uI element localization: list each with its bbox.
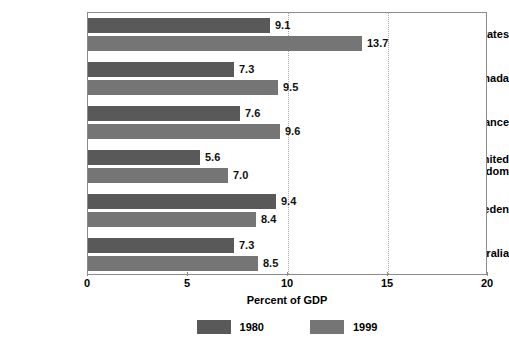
bar-chart: United StatesCanadaFranceUnitedKingdomSw… bbox=[0, 0, 509, 345]
legend-item-1999: 1999 bbox=[310, 320, 377, 334]
x-tick-label-5: 5 bbox=[184, 277, 190, 289]
bar-value-label: 9.4 bbox=[281, 194, 296, 209]
bar-value-label: 7.0 bbox=[233, 168, 248, 183]
bar-sweden-1999 bbox=[88, 212, 256, 227]
x-axis-ticks: 05101520 bbox=[87, 277, 487, 293]
x-axis-title: Percent of GDP bbox=[87, 294, 487, 306]
x-tick-label-20: 20 bbox=[481, 277, 493, 289]
x-tick-mark-15 bbox=[387, 272, 388, 276]
plot-area: 9.113.77.39.57.69.65.67.09.48.47.38.5 bbox=[87, 12, 487, 275]
bar-canada-1980 bbox=[88, 62, 234, 77]
bar-france-1980 bbox=[88, 106, 240, 121]
bar-value-label: 8.5 bbox=[263, 256, 278, 271]
bar-sweden-1980 bbox=[88, 194, 276, 209]
bar-value-label: 7.6 bbox=[245, 106, 260, 121]
legend-item-1980: 1980 bbox=[197, 320, 264, 334]
bar-canada-1999 bbox=[88, 80, 278, 95]
bar-value-label: 9.5 bbox=[283, 80, 298, 95]
gridline-10 bbox=[288, 13, 289, 274]
gridline-15 bbox=[388, 13, 389, 274]
bar-united-states-1999 bbox=[88, 36, 362, 51]
x-tick-label-15: 15 bbox=[381, 277, 393, 289]
bar-australia-1980 bbox=[88, 238, 234, 253]
x-tick-mark-20 bbox=[487, 272, 488, 276]
legend-label-1999: 1999 bbox=[353, 321, 377, 333]
x-tick-label-0: 0 bbox=[84, 277, 90, 289]
x-tick-mark-5 bbox=[187, 272, 188, 276]
bar-united-states-1980 bbox=[88, 18, 270, 33]
legend-label-1980: 1980 bbox=[240, 321, 264, 333]
bar-united-kingdom-1980 bbox=[88, 150, 200, 165]
bar-france-1999 bbox=[88, 124, 280, 139]
bar-australia-1999 bbox=[88, 256, 258, 271]
bar-united-kingdom-1999 bbox=[88, 168, 228, 183]
bar-value-label: 9.1 bbox=[275, 18, 290, 33]
bar-value-label: 5.6 bbox=[205, 150, 220, 165]
bar-value-label: 8.4 bbox=[261, 212, 276, 227]
legend-swatch-1980 bbox=[197, 320, 231, 334]
bar-value-label: 13.7 bbox=[367, 36, 388, 51]
chart-legend: 19801999 bbox=[87, 318, 487, 336]
bar-value-label: 9.6 bbox=[285, 124, 300, 139]
x-tick-mark-10 bbox=[287, 272, 288, 276]
legend-swatch-1999 bbox=[310, 320, 344, 334]
x-tick-label-10: 10 bbox=[281, 277, 293, 289]
x-tick-mark-0 bbox=[87, 272, 88, 276]
bar-value-label: 7.3 bbox=[239, 238, 254, 253]
bar-value-label: 7.3 bbox=[239, 62, 254, 77]
